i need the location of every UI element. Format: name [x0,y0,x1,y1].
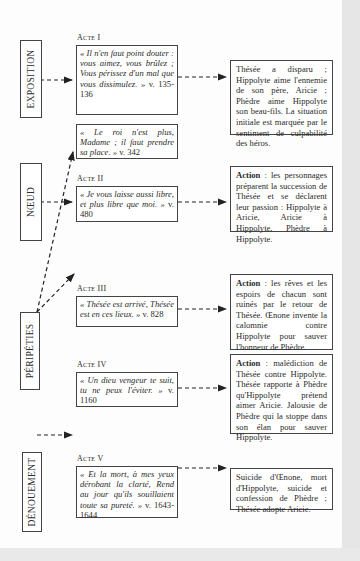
summary-text: Suicide d'Œnone, mort d'Hippolyte, suici… [236,472,327,514]
quote-box: « Thésée est arrivé, Thésée est en ces l… [76,296,178,327]
quote-text: « Un dieu vengeur te suit, tu ne peux l'… [80,375,174,395]
summary-text: : malédiction de Thésée contre Hippolyte… [236,358,327,442]
act-label: Acte I [77,33,101,42]
act-label: Acte V [77,454,104,463]
summary-box: Thésée a disparu ; Hippolyte aime l'enne… [230,60,333,135]
stage-exposition: EXPOSITION [20,40,42,118]
act-label: Acte III [77,284,107,293]
stage-denouement: DÉNOUEMENT [22,452,42,532]
act-label: Acte II [77,174,104,183]
stage-peripeties: PÉRIPÉTIES [20,312,40,390]
quote-box: « Un dieu vengeur te suit, tu ne peux l'… [76,372,178,407]
summary-box: Action : les personnages préparent la su… [230,166,333,232]
stage-label: EXPOSITION [26,50,36,109]
summary-text: Thésée a disparu ; Hippolyte aime l'enne… [236,64,327,148]
summary-keyword: Action [236,170,260,180]
summary-text: : les personnages préparent la successio… [236,170,327,244]
stage-noeud: NŒUD [20,163,42,241]
quote-box: « Le roi n'est plus, Madame ; il faut pr… [76,124,178,159]
quote-box: « Il n'en faut point douter : vous aimez… [76,45,178,115]
quote-text: « Je vous laisse aussi libre, et plus li… [80,189,174,209]
stage-label: PÉRIPÉTIES [25,324,35,379]
summary-box: Action : les rêves et les espoirs de cha… [230,274,333,350]
verse-ref: v. 828 [143,309,164,319]
quote-box: « Je vous laisse aussi libre, et plus li… [76,186,178,222]
summary-box: Suicide d'Œnone, mort d'Hippolyte, suici… [230,468,333,510]
summary-keyword: Action [236,358,260,368]
summary-keyword: Action [236,278,260,288]
act-label: Acte IV [77,360,107,369]
summary-box: Action : malédiction de Thésée contre Hi… [230,354,333,434]
stage-label: NŒUD [26,187,36,217]
verse-ref: v. 342 [119,147,140,157]
summary-text: : les rêves et les espoirs de chacun son… [236,278,327,352]
quote-box: « Et la mort, à mes yeux dérobant la cla… [76,466,178,518]
stage-label: DÉNOUEMENT [27,458,37,527]
